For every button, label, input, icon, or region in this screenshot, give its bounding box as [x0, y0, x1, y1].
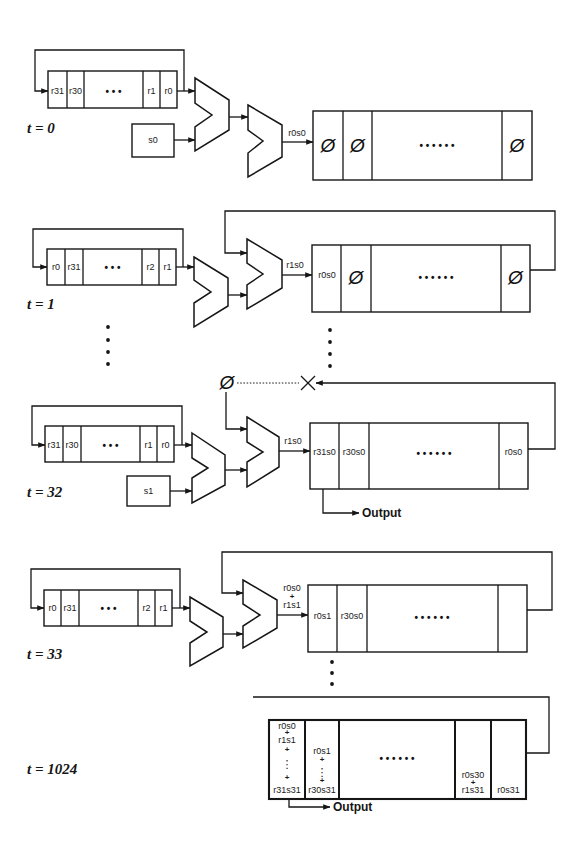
accumulator-cell: r0s1	[314, 611, 332, 621]
register-cell: r31	[63, 603, 76, 613]
accumulator-cell: r30s0	[341, 611, 364, 621]
null-feedback-source: Ø	[219, 372, 236, 393]
time-label: t = 0	[27, 120, 55, 136]
accumulator-register: r0s0 Ø • • • • • • Ø	[312, 245, 530, 312]
shift-register: r0 r31 • • • r2 r1	[47, 249, 176, 285]
register-cell: r1	[163, 262, 171, 272]
accumulator-cell: r0s0	[318, 270, 336, 280]
systolic-multiply-accumulate-diagram: t = 0 r31 r30 • • • r1 r0 s0 r0s0	[0, 0, 582, 859]
cell-term: r30s31	[308, 785, 336, 795]
register-cell: r1	[159, 603, 167, 613]
cell-term: r0s31	[497, 785, 520, 795]
register-cell: r2	[142, 603, 150, 613]
register-cell: r30	[65, 440, 78, 450]
s-input-label: s0	[148, 135, 158, 145]
cell-plus: +	[285, 773, 290, 782]
time-label: t = 33	[27, 646, 63, 662]
time-label: t = 32	[27, 484, 63, 500]
time-label: t = 1024	[27, 761, 78, 777]
accumulator-cell: r31s0	[313, 447, 336, 457]
register-cell: r2	[146, 262, 154, 272]
cell-term: r1s31	[462, 785, 485, 795]
s-input-label: s1	[144, 486, 154, 496]
cell-plus: +	[285, 745, 290, 754]
register-cell: r31	[47, 440, 60, 450]
shift-register: r31 r30 • • • r1 r0	[48, 71, 177, 108]
register-cell: r0	[161, 440, 169, 450]
adder-output-label: r1s0	[284, 436, 302, 446]
accumulator-cell: r30s0	[343, 447, 366, 457]
cell-vertical-ellipsis: ⋮	[282, 758, 293, 771]
register-cell: r31	[67, 262, 80, 272]
accumulator-ellipsis: • • • • • •	[419, 272, 454, 283]
adder-output-label: r1s1	[283, 600, 301, 610]
register-ellipsis: • • •	[100, 603, 117, 614]
register-cell: r31	[51, 86, 64, 96]
null-symbol: Ø	[507, 267, 524, 288]
register-ellipsis: • • •	[104, 262, 121, 273]
accumulator-ellipsis: • • • • • •	[420, 140, 455, 151]
cell-term: r31s31	[273, 785, 301, 795]
register-cell: r0	[48, 603, 56, 613]
accumulator-ellipsis: • • • • • •	[417, 448, 452, 459]
register-cell: r30	[69, 86, 82, 96]
register-ellipsis: • • •	[105, 86, 122, 97]
register-cell: r0	[164, 86, 172, 96]
register-cell: r0	[52, 262, 60, 272]
cell-term: r1s1	[278, 735, 296, 745]
accumulator-cell: r0s0	[505, 447, 523, 457]
register-cell: r1	[147, 86, 155, 96]
adder-output-label: r0s0	[288, 128, 306, 138]
cell-plus: +	[320, 776, 325, 785]
time-label: t = 1	[27, 296, 55, 312]
accumulator-register: r0s1 r30s0 • • • • • •	[308, 585, 527, 652]
accumulator-register-final: r0s0 + r1s1 + ⋮ + r31s31 r0s1 + ⋮ + r30s…	[269, 720, 526, 799]
register-ellipsis: • • •	[102, 440, 119, 451]
accumulator-ellipsis: • • • • • •	[415, 612, 450, 623]
accumulator-register: Ø Ø • • • • • • Ø	[313, 111, 532, 180]
register-cell: r1	[144, 440, 152, 450]
adder-output-label: r1s0	[286, 260, 304, 270]
cell-plus: +	[320, 755, 325, 764]
null-symbol: Ø	[349, 135, 366, 156]
accumulator-register: r31s0 r30s0 • • • • • • r0s0	[310, 423, 528, 489]
accumulator-ellipsis: • • • • • •	[380, 753, 415, 764]
null-symbol: Ø	[348, 267, 365, 288]
null-symbol: Ø	[320, 135, 337, 156]
shift-register: r0 r31 • • • r2 r1	[44, 590, 172, 626]
null-symbol: Ø	[509, 135, 526, 156]
output-label: Output	[362, 506, 401, 520]
output-label: Output	[333, 800, 372, 814]
shift-register: r31 r30 • • • r1 r0	[45, 426, 174, 462]
